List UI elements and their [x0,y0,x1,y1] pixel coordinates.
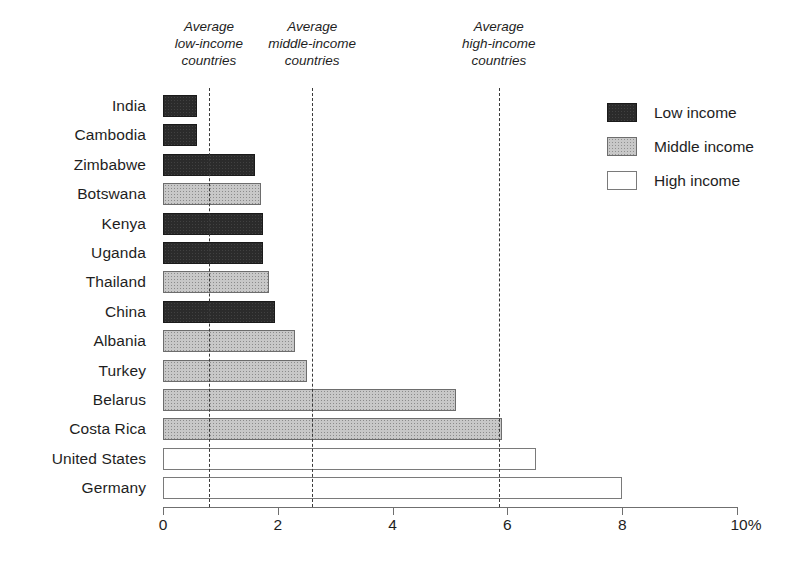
bar-row [163,448,536,470]
x-tick-label-8: 8 [618,516,627,534]
bar-row [163,213,263,235]
x-axis-line [163,507,737,508]
bar-india [163,95,197,117]
x-tick-10 [737,507,738,515]
legend-swatch-middle-icon [607,137,637,156]
bar-united-states [163,448,536,470]
bar-botswana [163,183,261,205]
bar-row [163,301,275,323]
bar-germany [163,477,622,499]
legend-item-low[interactable]: Low income [607,98,754,127]
legend-label-middle: Middle income [654,138,754,156]
reference-line-middle-income-average [312,88,313,507]
category-axis-labels: IndiaCambodiaZimbabweBotswanaKenyaUganda… [0,95,155,507]
category-label-albania: Albania [94,330,146,352]
reference-label-high-income-average: Averagehigh-incomecountries [462,18,536,69]
legend-item-middle[interactable]: Middle income [607,132,754,161]
bar-costa-rica [163,418,502,440]
category-label-kenya: Kenya [102,213,146,235]
x-tick-label-2: 2 [273,516,282,534]
category-label-china: China [105,301,146,323]
bar-chart: IndiaCambodiaZimbabweBotswanaKenyaUganda… [0,0,799,573]
bar-row [163,183,261,205]
reference-label-line: countries [175,52,243,69]
bar-belarus [163,389,456,411]
x-tick-label-4: 4 [388,516,397,534]
x-tick-label-10pct: 10% [730,516,761,534]
bar-row [163,360,307,382]
bar-cambodia [163,124,197,146]
reference-label-line: Average [175,18,243,35]
x-tick-label-0: 0 [159,516,168,534]
bar-row [163,330,295,352]
reference-line-low-income-average [209,88,210,507]
bar-row [163,389,456,411]
reference-label-low-income-average: Averagelow-incomecountries [175,18,243,69]
x-tick-6 [507,507,508,515]
reference-label-middle-income-average: Averagemiddle-incomecountries [268,18,356,69]
bar-china [163,301,275,323]
reference-label-line: countries [268,52,356,69]
bar-row [163,124,197,146]
x-tick-8 [622,507,623,515]
x-tick-2 [278,507,279,515]
category-label-turkey: Turkey [99,360,146,382]
x-tick-4 [393,507,394,515]
x-tick-0 [163,507,164,515]
x-tick-label-6: 6 [503,516,512,534]
reference-label-line: Average [268,18,356,35]
reference-line-high-income-average [499,88,500,507]
category-label-belarus: Belarus [93,389,146,411]
bar-albania [163,330,295,352]
category-label-thailand: Thailand [86,271,146,293]
bar-row [163,95,197,117]
legend-label-low: Low income [654,104,737,122]
bar-row [163,418,502,440]
category-label-cambodia: Cambodia [75,124,146,146]
chart-legend: Low incomeMiddle incomeHigh income [607,98,754,200]
bar-uganda [163,242,263,264]
bar-row [163,242,263,264]
bar-kenya [163,213,263,235]
reference-label-line: high-income [462,35,536,52]
category-label-germany: Germany [82,477,146,499]
bar-row [163,477,622,499]
bar-turkey [163,360,307,382]
legend-swatch-low-icon [607,103,637,122]
category-label-botswana: Botswana [77,183,146,205]
legend-item-high[interactable]: High income [607,166,754,195]
category-label-costa-rica: Costa Rica [69,418,146,440]
plot-area [163,95,630,507]
reference-label-line: middle-income [268,35,356,52]
reference-label-line: Average [462,18,536,35]
bar-row [163,271,269,293]
bar-thailand [163,271,269,293]
legend-label-high: High income [654,172,740,190]
reference-label-line: countries [462,52,536,69]
category-label-uganda: Uganda [91,242,146,264]
category-label-india: India [112,95,146,117]
legend-swatch-high-icon [607,171,637,190]
reference-label-line: low-income [175,35,243,52]
category-label-united-states: United States [52,448,146,470]
category-label-zimbabwe: Zimbabwe [74,154,146,176]
